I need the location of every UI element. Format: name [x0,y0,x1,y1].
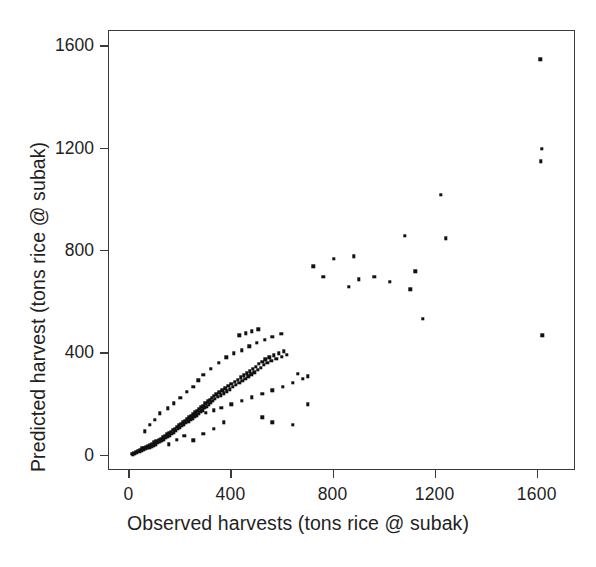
x-tick-mark [333,470,334,478]
data-point [179,396,182,399]
x-tick-mark [128,470,129,478]
data-point [255,341,258,344]
data-point [439,193,442,196]
x-axis-title: Observed harvests (tons rice @ subak) [0,512,596,535]
x-tick-mark [435,470,436,478]
data-point [291,423,294,426]
data-point [197,378,200,381]
data-point [202,432,205,435]
data-point [296,372,299,375]
scatter-plot-figure: Predicted harvest (tons rice @ subak) 04… [0,0,596,567]
data-point [347,285,350,288]
data-point [322,275,325,278]
y-tick-mark [100,455,108,456]
data-point [285,353,288,356]
y-tick-mark [100,250,108,251]
data-point [250,396,253,399]
x-tick-label: 0 [123,484,133,505]
y-tick-label: 800 [0,240,94,261]
data-point [275,357,278,360]
data-point [271,335,274,338]
data-point [192,385,195,388]
data-point [158,412,161,415]
data-point [270,359,273,362]
data-point [202,373,205,376]
data-point [301,377,304,380]
data-point [539,57,542,60]
data-point [291,381,294,384]
data-point [244,332,247,335]
data-point [266,361,269,364]
y-axis-title: Predicted harvest (tons rice @ subak) [27,142,50,472]
y-tick-label: 1200 [0,137,94,158]
data-point [260,392,263,395]
data-point [306,375,309,378]
data-point [357,277,360,280]
x-tick-label: 400 [216,484,246,505]
data-point [263,338,266,341]
data-point [204,411,207,414]
x-tick-label: 1600 [517,484,557,505]
data-point [240,349,243,352]
y-tick-label: 1600 [0,35,94,56]
y-tick-mark [100,45,108,46]
data-point [257,328,260,331]
data-point [408,288,411,291]
data-point [373,275,376,278]
data-point [167,442,170,445]
data-point [444,237,447,240]
data-point [212,427,215,430]
data-point [271,388,274,391]
data-point [271,421,274,424]
data-point [220,406,223,409]
data-point [240,399,243,402]
data-point [539,160,542,163]
data-point [541,334,544,337]
data-point [172,402,175,405]
data-point [222,421,225,424]
data-point [212,408,215,411]
data-point [185,390,188,393]
data-points-layer [109,31,574,469]
data-point [209,367,212,370]
data-point [166,407,169,410]
data-point [250,330,253,333]
y-tick-label: 400 [0,342,94,363]
data-point [230,403,233,406]
data-point [225,355,228,358]
data-point [143,430,146,433]
plot-area [108,30,575,470]
y-tick-label: 0 [0,444,94,465]
data-point [352,254,355,257]
data-point [414,270,417,273]
x-tick-mark [230,470,231,478]
data-point [540,147,543,150]
data-point [153,418,156,421]
data-point [148,423,151,426]
data-point [192,439,195,442]
data-point [332,257,335,260]
data-point [260,416,263,419]
data-point [311,265,314,268]
data-point [248,344,251,347]
x-tick-label: 1200 [415,484,455,505]
data-point [237,334,240,337]
data-point [388,280,391,283]
data-point [175,438,178,441]
data-point [306,403,309,406]
data-point [280,355,283,358]
data-point [183,434,186,437]
y-tick-mark [100,148,108,149]
y-tick-mark [100,352,108,353]
data-point [280,332,283,335]
data-point [217,361,220,364]
data-point [232,352,235,355]
x-tick-mark [537,470,538,478]
data-point [403,234,406,237]
data-point [281,385,284,388]
data-point [421,317,424,320]
x-tick-label: 800 [318,484,348,505]
